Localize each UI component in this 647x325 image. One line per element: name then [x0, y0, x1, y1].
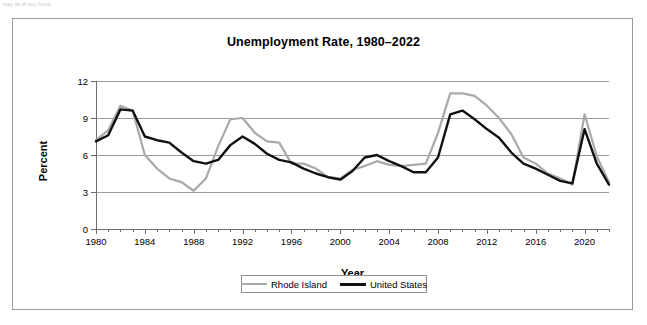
x-tick-2003 — [377, 229, 378, 232]
x-tick-2016 — [536, 229, 537, 234]
x-tick-label-2016: 2016 — [525, 236, 546, 247]
x-tick-1987 — [182, 229, 183, 232]
x-tick-2010 — [462, 229, 463, 232]
x-tick-1982 — [120, 229, 121, 232]
x-tick-1994 — [267, 229, 268, 232]
x-tick-1999 — [328, 229, 329, 232]
plot-area: 036912 198019841988199219962000200420082… — [96, 81, 609, 229]
y-tick-label-3: 3 — [83, 187, 88, 198]
x-tick-2007 — [426, 229, 427, 232]
x-tick-2000 — [340, 229, 341, 234]
y-tick-label-12: 12 — [77, 76, 88, 87]
y-axis-label: Percent — [37, 141, 49, 181]
x-tick-2018 — [560, 229, 561, 232]
x-tick-1985 — [157, 229, 158, 232]
x-tick-2019 — [572, 229, 573, 232]
x-tick-1992 — [243, 229, 244, 234]
series-lines — [96, 81, 609, 229]
x-tick-2005 — [401, 229, 402, 232]
x-tick-label-2012: 2012 — [476, 236, 497, 247]
x-tick-label-1984: 1984 — [134, 236, 155, 247]
x-tick-2004 — [389, 229, 390, 234]
figure-frame: Unemployment Rate, 1980–2022 Percent Yea… — [12, 18, 633, 310]
x-tick-1983 — [133, 229, 134, 232]
series-line-rhode-island — [96, 93, 609, 190]
x-tick-label-1988: 1988 — [183, 236, 204, 247]
legend-label-united-states: United States — [370, 279, 427, 290]
y-tick-label-0: 0 — [83, 224, 88, 235]
x-tick-1988 — [194, 229, 195, 234]
x-tick-2014 — [511, 229, 512, 232]
x-tick-label-2004: 2004 — [379, 236, 400, 247]
chart-title: Unemployment Rate, 1980–2022 — [13, 35, 634, 49]
y-tick-label-9: 9 — [83, 113, 88, 124]
legend-item-rhode-island: Rhode Island — [241, 279, 327, 290]
x-tick-2020 — [585, 229, 586, 234]
x-tick-label-2020: 2020 — [574, 236, 595, 247]
x-tick-2009 — [450, 229, 451, 232]
x-tick-1981 — [108, 229, 109, 232]
x-tick-2001 — [353, 229, 354, 232]
x-tick-label-2000: 2000 — [330, 236, 351, 247]
x-tick-1984 — [145, 229, 146, 234]
x-tick-1996 — [291, 229, 292, 234]
x-tick-2022 — [609, 229, 610, 232]
x-tick-2002 — [365, 229, 366, 232]
x-tick-label-1996: 1996 — [281, 236, 302, 247]
x-tick-1989 — [206, 229, 207, 232]
x-tick-2008 — [438, 229, 439, 234]
x-tick-2011 — [475, 229, 476, 232]
x-tick-2012 — [487, 229, 488, 234]
x-tick-1990 — [218, 229, 219, 232]
top-text-fragment: may as of any fiscal — [3, 0, 63, 9]
x-tick-2017 — [548, 229, 549, 232]
y-tick-label-6: 6 — [83, 150, 88, 161]
x-tick-label-1980: 1980 — [85, 236, 106, 247]
x-tick-2006 — [414, 229, 415, 232]
legend-line-icon-rhode-island — [241, 283, 267, 285]
chart-legend: Rhode Island United States — [241, 275, 427, 293]
x-tick-label-1992: 1992 — [232, 236, 253, 247]
x-tick-1998 — [316, 229, 317, 232]
x-tick-1991 — [230, 229, 231, 232]
series-line-united-states — [96, 109, 609, 184]
legend-label-rhode-island: Rhode Island — [271, 279, 327, 290]
x-tick-1980 — [96, 229, 97, 234]
legend-item-united-states: United States — [340, 279, 427, 290]
x-tick-1993 — [255, 229, 256, 232]
x-tick-1995 — [279, 229, 280, 232]
x-tick-1986 — [169, 229, 170, 232]
x-tick-2021 — [597, 229, 598, 232]
legend-line-icon-united-states — [340, 283, 366, 286]
x-tick-2013 — [499, 229, 500, 232]
x-tick-1997 — [304, 229, 305, 232]
x-tick-label-2008: 2008 — [427, 236, 448, 247]
x-tick-2015 — [524, 229, 525, 232]
